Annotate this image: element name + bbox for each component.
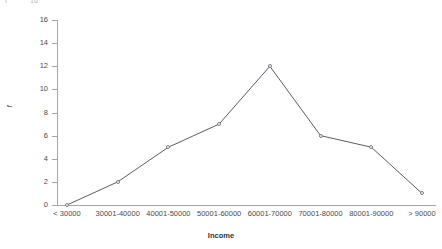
data-point-marker [65, 203, 69, 207]
series-line [67, 66, 422, 205]
frequency-polygon-chart: f 16 0246810121416 f < 3000030001-400004… [0, 0, 442, 249]
series-line-layer [0, 0, 442, 249]
x-axis-title: Income [0, 231, 442, 240]
data-point-marker [319, 134, 323, 138]
data-point-marker [116, 180, 120, 184]
